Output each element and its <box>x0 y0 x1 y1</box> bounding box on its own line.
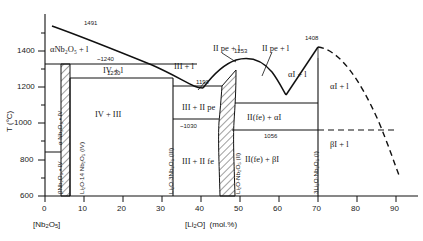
x-tick-50: 50 <box>234 205 243 213</box>
x-tick-60: 60 <box>273 205 282 213</box>
region-beta-i-liquid-right: βI + l <box>330 140 349 149</box>
region-iii-ii-fe: III + II fe <box>182 157 214 166</box>
x-tick-10: 10 <box>78 205 87 213</box>
x-tick-40: 40 <box>195 205 204 213</box>
y-tick-800: 800 <box>20 156 33 164</box>
temp-label-1030: ~1030 <box>180 123 197 129</box>
region-ii-fe-alpha-i: II(fe) + αI <box>247 113 281 122</box>
region-alpha-nb2o5-liquid: αNb₂O₅ + l <box>50 45 88 54</box>
temp-label-1491: 1491 <box>84 20 97 26</box>
vertical-label-beta-nb2o5-iv: βNb₂O₅ • IV <box>57 161 63 194</box>
temp-label-1408: 1408 <box>305 35 318 41</box>
phase-diagram-figure: T (°C) 1400 1200 1000 800 600 0 10 20 30… <box>0 0 423 241</box>
vertical-label-compound-iv: Li₂O·14 Nb₂O₅ (IV) <box>79 142 85 194</box>
region-iii-ii-pe: III + II pe <box>182 103 215 112</box>
x-tick-30: 30 <box>156 205 165 213</box>
y-axis-ticks <box>38 33 45 196</box>
vertical-label-compound-iii: Li₂O·3Nb₂O₅ (III) <box>168 148 174 194</box>
temp-label-1056: 1056 <box>264 133 277 139</box>
x-tick-80: 80 <box>351 205 360 213</box>
x-tick-70: 70 <box>312 205 321 213</box>
liquidus-dome-ii <box>203 59 286 96</box>
temp-label-1240: ~1240 <box>97 56 114 62</box>
region-iii-liquid: III + l <box>174 62 194 71</box>
x-axis-title-left-text: [Nb2O5] <box>33 220 60 229</box>
y-tick-1400: 1400 <box>17 47 35 55</box>
vertical-label-compound-i: 3Li₂O·Nb₂O₅ (I) <box>313 151 319 194</box>
region-ii-pe-liquid-left: II pe + l <box>213 44 240 53</box>
y-tick-1000: 1000 <box>14 119 32 127</box>
x-axis-ticks <box>45 196 396 202</box>
y-tick-600: 600 <box>20 192 33 200</box>
region-ii-pe-liquid-right: II pe + l <box>262 44 289 53</box>
y-tick-1200: 1200 <box>17 83 35 91</box>
liquidus-curve-left <box>52 26 194 86</box>
region-alpha-i-liquid-upper: αI + l <box>288 70 307 79</box>
region-alpha-i-liquid-right: αI + l <box>330 82 349 91</box>
region-iv-liquid: IV + l <box>103 66 123 75</box>
x-axis-title-main: [Li2O] (mol.%) <box>185 221 237 230</box>
region-ii-fe-beta-i: II(fe) + βI <box>245 155 279 164</box>
x-tick-0: 0 <box>42 205 46 213</box>
x-tick-90: 90 <box>390 205 399 213</box>
region-iv-iii: IV + III <box>95 110 121 119</box>
vertical-label-compound-ii: Li₂O·Nb₂O₅ (II) <box>235 153 241 194</box>
liquidus-dashed-right <box>318 47 400 178</box>
temp-label-1190: 1190 <box>196 79 209 85</box>
y-axis-title: T (°C) <box>6 111 14 132</box>
x-tick-20: 20 <box>117 205 126 213</box>
vertical-label-alpha-nb2o5-iv: α Nb₂O₅ • IV <box>57 111 63 145</box>
x-axis-title-left: [Nb2O5] <box>33 221 60 230</box>
